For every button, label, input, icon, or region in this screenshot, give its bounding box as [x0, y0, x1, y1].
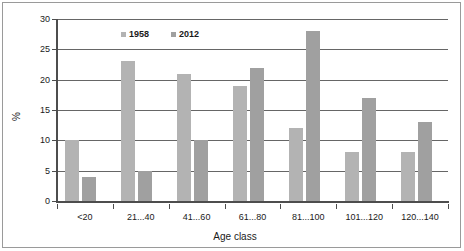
y-tick-label-text: 5	[26, 167, 50, 176]
bar-2012-81...100	[306, 31, 320, 201]
y-tick-label-text: 15	[26, 106, 50, 115]
x-category-label: <20	[57, 212, 113, 222]
x-tick-mark	[280, 204, 281, 209]
bar-2012-21...40	[138, 171, 152, 201]
y-tick-label: 15	[26, 106, 50, 115]
bar-2012-101...120	[362, 98, 376, 201]
x-tick-mark	[113, 204, 114, 209]
bar-1958-120...140	[401, 152, 415, 201]
y-tick-label: 10	[26, 136, 50, 145]
bar-1958-101...120	[345, 152, 359, 201]
bar-1958-<20	[65, 140, 79, 201]
x-category-label: 41...60	[169, 212, 225, 222]
bar-2012-<20	[82, 177, 96, 201]
x-tick-mark	[392, 204, 393, 209]
bar-1958-41...60	[177, 74, 191, 201]
bar-2012-61...80	[250, 68, 264, 201]
x-category-label: 21...40	[113, 212, 169, 222]
y-tick-label: 30	[26, 15, 50, 24]
x-axis-line	[56, 201, 449, 203]
y-tick-label-text: 0	[26, 197, 50, 206]
legend-entry-2012: 2012	[171, 30, 199, 39]
chart-legend: 19582012	[121, 30, 199, 39]
bars-layer	[57, 19, 448, 201]
y-tick-label: 20	[26, 76, 50, 85]
legend-label: 1958	[129, 30, 149, 39]
legend-swatch-icon	[121, 32, 126, 37]
y-tick-label-text: 25	[26, 45, 50, 54]
y-tick-label-text: 10	[26, 136, 50, 145]
bar-2012-41...60	[194, 140, 208, 201]
x-tick-mark	[225, 204, 226, 209]
x-axis-title: Age class	[3, 231, 464, 242]
x-tick-mark	[169, 204, 170, 209]
y-tick-label-text: 20	[26, 76, 50, 85]
x-tick-mark	[448, 204, 449, 209]
y-tick-label: 25	[26, 45, 50, 54]
x-category-label: 61...80	[225, 212, 281, 222]
y-tick-label: 5	[26, 167, 50, 176]
bar-1958-21...40	[121, 61, 135, 201]
x-tick-mark	[336, 204, 337, 209]
bar-2012-120...140	[418, 122, 432, 201]
y-axis-title: %	[11, 112, 22, 121]
y-tick-label-text: 30	[26, 15, 50, 24]
x-category-label: 101...120	[336, 212, 392, 222]
legend-entry-1958: 1958	[121, 30, 149, 39]
legend-swatch-icon	[171, 32, 176, 37]
x-category-label: 81...100	[280, 212, 336, 222]
bar-1958-81...100	[289, 128, 303, 201]
y-tick-label: 0	[26, 197, 50, 206]
x-tick-mark	[57, 204, 58, 209]
x-category-label: 120...140	[392, 212, 448, 222]
chart-frame: % 051015202530 <2021...4041...6061...808…	[2, 2, 461, 248]
bar-1958-61...80	[233, 86, 247, 201]
legend-label: 2012	[179, 30, 199, 39]
